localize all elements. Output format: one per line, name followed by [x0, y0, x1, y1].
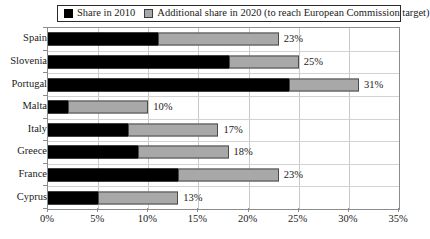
value-axis-label: 25% — [288, 214, 307, 225]
bar-value-label: 13% — [183, 192, 202, 203]
category-label: Malta — [3, 101, 47, 112]
value-axis-tick — [197, 208, 198, 212]
bar-segment-series-1 — [138, 146, 228, 159]
bar-value-label: 31% — [364, 79, 383, 90]
category-label: Greece — [3, 146, 47, 157]
value-axis-label: 10% — [138, 214, 157, 225]
bar-segment-series-1 — [128, 123, 218, 136]
category-label: Cyprus — [3, 191, 47, 202]
legend-label-series-1: Additional share in 2020 (to reach Europ… — [157, 8, 429, 19]
value-axis-tick — [97, 208, 98, 212]
bar-segment-series-1 — [98, 191, 178, 204]
bar-segment-series-1 — [68, 101, 148, 114]
bars-layer: 23%25%31%10%17%18%23%13% — [48, 28, 399, 209]
value-axis-tick — [147, 208, 148, 212]
value-axis-tick — [47, 208, 48, 212]
value-axis-label: 30% — [338, 214, 357, 225]
bar-segment-series-0 — [48, 123, 128, 136]
bar-value-label: 17% — [223, 125, 242, 136]
category-label: Italy — [3, 124, 47, 135]
bar-row: 23% — [48, 28, 399, 51]
legend-entry-additional-share-in-2020: Additional share in 2020 (to reach Europ… — [144, 8, 429, 19]
value-axis-tick — [348, 208, 349, 212]
bar-segment-series-0 — [48, 169, 178, 182]
category-label: Spain — [3, 33, 47, 44]
bar-value-label: 23% — [284, 170, 303, 181]
bar-segment-series-0 — [48, 146, 138, 159]
bar-segment-series-0 — [48, 191, 98, 204]
category-label: Portugal — [3, 78, 47, 89]
value-axis-tick — [248, 208, 249, 212]
category-axis: SpainSloveniaPortugalMaltaItalyGreeceFra… — [0, 27, 47, 208]
bar-row: 13% — [48, 186, 399, 209]
bar-segment-series-0 — [48, 78, 289, 91]
value-axis-tick — [398, 208, 399, 212]
bar-row: 18% — [48, 141, 399, 164]
bar-value-label: 10% — [153, 102, 172, 113]
bar-row: 23% — [48, 164, 399, 187]
bar-segment-series-1 — [289, 78, 359, 91]
category-label: Slovenia — [3, 56, 47, 67]
value-axis-label: 0% — [40, 214, 54, 225]
chart-legend: Share in 2010 Additional share in 2020 (… — [57, 5, 401, 22]
bar-segment-series-1 — [178, 169, 278, 182]
legend-swatch-icon-series-0 — [64, 9, 73, 18]
bar-row: 10% — [48, 96, 399, 119]
bar-segment-series-0 — [48, 33, 158, 46]
value-axis-tick — [298, 208, 299, 212]
bar-row: 17% — [48, 119, 399, 142]
value-axis-label: 35% — [388, 214, 407, 225]
legend-label-series-0: Share in 2010 — [77, 8, 135, 19]
plot-area: 23%25%31%10%17%18%23%13% — [47, 27, 400, 210]
bar-value-label: 18% — [234, 147, 253, 158]
category-label: France — [3, 169, 47, 180]
bar-row: 31% — [48, 73, 399, 96]
bar-value-label: 23% — [284, 34, 303, 45]
bar-segment-series-1 — [158, 33, 278, 46]
bar-value-label: 25% — [304, 57, 323, 68]
legend-swatch-icon-series-1 — [144, 9, 153, 18]
bar-segment-series-0 — [48, 55, 229, 68]
bar-row: 25% — [48, 51, 399, 74]
value-axis: 0%5%10%15%20%25%30%35% — [47, 208, 400, 236]
bar-segment-series-1 — [229, 55, 299, 68]
value-axis-label: 15% — [188, 214, 207, 225]
legend-entry-share-in-2010: Share in 2010 — [64, 8, 135, 19]
value-axis-label: 20% — [238, 214, 257, 225]
bar-segment-series-0 — [48, 101, 68, 114]
value-axis-label: 5% — [90, 214, 104, 225]
